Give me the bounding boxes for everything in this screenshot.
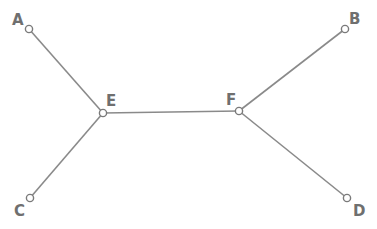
tree-diagram: ABCDEF bbox=[0, 0, 377, 229]
edges bbox=[29, 29, 347, 198]
diagram-canvas: ABCDEF bbox=[0, 0, 377, 229]
edge-c-e bbox=[30, 113, 103, 198]
edge-e-f bbox=[103, 111, 239, 113]
node-e bbox=[99, 109, 106, 116]
node-f bbox=[235, 107, 242, 114]
edge-a-e bbox=[29, 29, 103, 113]
node-label-f: F bbox=[226, 91, 236, 109]
node-a bbox=[25, 25, 32, 32]
node-label-d: D bbox=[353, 202, 365, 220]
labels: ABCDEF bbox=[12, 10, 365, 220]
node-c bbox=[26, 194, 33, 201]
edge-f-d bbox=[239, 111, 347, 198]
edge-f-b bbox=[239, 29, 345, 111]
node-label-c: C bbox=[14, 202, 25, 220]
node-b bbox=[341, 25, 348, 32]
nodes bbox=[25, 25, 350, 201]
node-label-e: E bbox=[106, 92, 116, 110]
node-label-b: B bbox=[349, 10, 360, 28]
node-d bbox=[343, 194, 350, 201]
node-label-a: A bbox=[12, 11, 24, 29]
